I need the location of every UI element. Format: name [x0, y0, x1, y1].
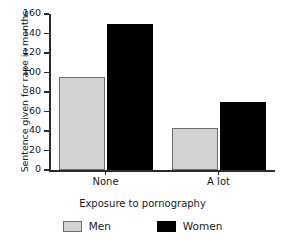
- x-axis-tick: [105, 170, 107, 175]
- bar-women-a-lot: [220, 102, 266, 170]
- x-axis-title: Exposure to pornography: [0, 198, 285, 209]
- bar-men-a-lot: [172, 128, 218, 170]
- x-axis-category-label: A lot: [162, 176, 275, 187]
- y-axis-tick: 0: [44, 169, 49, 171]
- y-axis-tick: 80: [44, 91, 49, 93]
- plot-area: 020406080100120140160: [49, 14, 275, 170]
- y-axis-tick: 20: [44, 150, 49, 152]
- legend-swatch-icon: [157, 221, 176, 232]
- x-axis-tick: [218, 170, 220, 175]
- legend-label: Women: [183, 220, 223, 232]
- y-axis-tick-label: 0: [35, 163, 41, 174]
- y-axis-tick-label: 120: [23, 46, 41, 57]
- x-axis-category-label: None: [49, 176, 162, 187]
- legend: MenWomen: [0, 220, 285, 232]
- y-axis-tick: 60: [44, 111, 49, 113]
- y-axis-tick: 140: [44, 33, 49, 35]
- y-axis-tick: 120: [44, 52, 49, 54]
- y-axis-tick-label: 60: [29, 105, 41, 116]
- x-axis-line: [49, 170, 275, 172]
- y-axis-tick-label: 160: [23, 7, 41, 18]
- bar-men-none: [59, 77, 105, 170]
- y-axis-tick-label: 100: [23, 66, 41, 77]
- bar-chart: Sentence given for rape in months 020406…: [0, 0, 285, 241]
- y-axis-tick: 100: [44, 72, 49, 74]
- y-axis-line: [49, 14, 51, 170]
- legend-label: Men: [89, 220, 111, 232]
- y-axis-tick-label: 140: [23, 27, 41, 38]
- y-axis-tick-label: 40: [29, 124, 41, 135]
- y-axis-tick-label: 20: [29, 144, 41, 155]
- legend-item-men: Men: [63, 220, 111, 232]
- bar-women-none: [107, 24, 153, 170]
- y-axis-tick: 40: [44, 130, 49, 132]
- y-axis-tick-label: 80: [29, 85, 41, 96]
- legend-item-women: Women: [157, 220, 223, 232]
- y-axis-tick: 160: [44, 13, 49, 15]
- legend-swatch-icon: [63, 221, 82, 232]
